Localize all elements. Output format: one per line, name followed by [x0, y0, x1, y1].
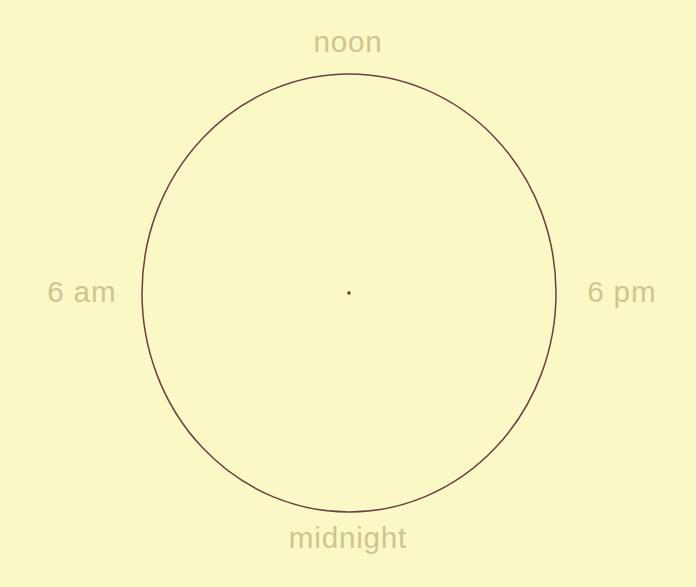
- label-6pm: 6 pm: [587, 278, 656, 307]
- label-noon: noon: [0, 28, 696, 57]
- label-midnight: midnight: [0, 524, 696, 553]
- label-6am: 6 am: [47, 278, 116, 307]
- diagram-canvas: noon 6 am 6 pm midnight: [0, 0, 696, 587]
- center-point-dot: [348, 292, 351, 295]
